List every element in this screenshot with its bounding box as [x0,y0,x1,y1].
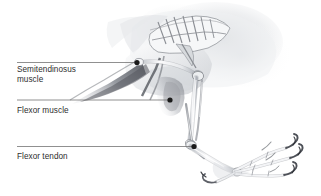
leader-line-flexor-tendon [17,144,197,149]
callout-leader-lines [0,0,321,196]
callout-label-flexor-muscle: Flexor muscle [17,106,69,116]
callout-label-semitendinosus: Semitendinosus muscle [17,65,76,86]
anatomy-figure: Semitendinosus muscle Flexor muscle Flex… [0,0,321,196]
leader-line-flexor-muscle [17,97,173,102]
callout-label-flexor-tendon: Flexor tendon [17,152,68,162]
